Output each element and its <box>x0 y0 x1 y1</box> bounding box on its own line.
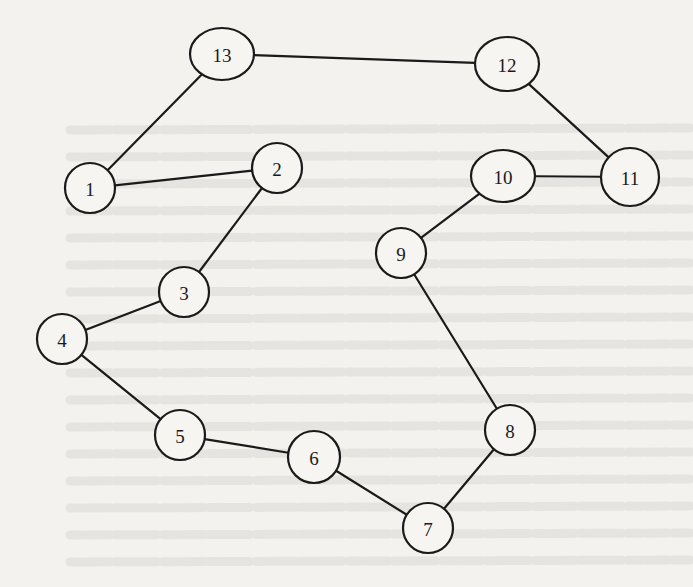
node-label: 12 <box>498 55 517 76</box>
node-6: 6 <box>288 431 340 483</box>
node-4: 4 <box>37 314 87 364</box>
edge-4-5 <box>81 355 160 419</box>
graph-figure: 13121210113495687 <box>0 0 693 587</box>
node-label: 4 <box>57 330 67 351</box>
edge-6-7 <box>336 471 407 515</box>
edge-12-11 <box>529 84 609 157</box>
node-label: 10 <box>494 167 513 188</box>
edge-7-8 <box>444 449 494 509</box>
edge-5-6 <box>205 439 289 453</box>
node-label: 3 <box>179 283 189 304</box>
edge-2-3 <box>199 188 262 272</box>
edge-1-2 <box>115 171 252 186</box>
edge-13-12 <box>254 55 475 63</box>
node-2: 2 <box>252 143 302 193</box>
node-label: 5 <box>175 426 185 447</box>
node-label: 11 <box>621 168 639 189</box>
edge-11-10 <box>535 176 601 177</box>
node-3: 3 <box>159 267 209 317</box>
node-11: 11 <box>601 148 659 206</box>
node-label: 7 <box>423 519 433 540</box>
node-label: 2 <box>272 159 282 180</box>
graph-svg: 13121210113495687 <box>0 0 693 587</box>
node-7: 7 <box>403 503 453 553</box>
node-13: 13 <box>190 28 254 80</box>
node-layer: 13121210113495687 <box>37 28 659 553</box>
edge-13-1 <box>108 74 202 170</box>
node-8: 8 <box>485 405 535 455</box>
edge-10-9 <box>421 194 480 238</box>
node-label: 8 <box>505 421 515 442</box>
node-10: 10 <box>471 150 535 202</box>
node-12: 12 <box>475 37 539 91</box>
node-label: 13 <box>213 45 232 66</box>
edge-9-8 <box>414 274 497 408</box>
node-label: 6 <box>309 448 319 469</box>
node-1: 1 <box>65 163 115 213</box>
node-label: 1 <box>85 179 95 200</box>
node-5: 5 <box>155 410 205 460</box>
node-9: 9 <box>376 228 426 278</box>
edge-3-4 <box>85 301 160 330</box>
node-label: 9 <box>396 244 406 265</box>
